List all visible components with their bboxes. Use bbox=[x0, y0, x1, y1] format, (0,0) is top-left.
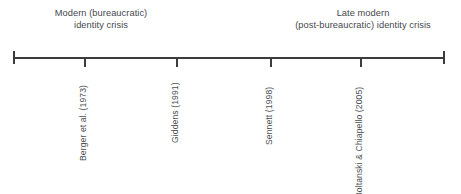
axis-tick-4 bbox=[360, 58, 362, 67]
era-label-modern-line1: Modern (bureaucratic) bbox=[12, 7, 190, 19]
era-label-late-modern: Late modern (post-bureaucratic) identity… bbox=[268, 7, 458, 32]
era-label-late-modern-line1: Late modern bbox=[268, 7, 458, 19]
era-label-late-modern-line2: (post-bureaucratic) identity crisis bbox=[268, 19, 458, 31]
axis-tick-2 bbox=[176, 58, 178, 67]
reference-label-4: Boltanski & Chiapello (2005) bbox=[355, 87, 364, 194]
axis-end-cap-left bbox=[13, 51, 15, 64]
axis-end-cap-right bbox=[443, 51, 445, 64]
era-label-modern-line2: identity crisis bbox=[12, 19, 190, 31]
timeline-figure: Modern (bureaucratic) identity crisis La… bbox=[0, 0, 461, 194]
era-label-modern: Modern (bureaucratic) identity crisis bbox=[12, 7, 190, 32]
axis-tick-3 bbox=[270, 58, 272, 67]
reference-label-1: Berger et al. (1973) bbox=[79, 85, 88, 161]
reference-label-3: Sennett (1998) bbox=[265, 87, 274, 145]
axis-tick-1 bbox=[84, 58, 86, 67]
reference-label-2: Giddens (1991) bbox=[171, 82, 180, 143]
timeline-axis bbox=[13, 57, 445, 59]
